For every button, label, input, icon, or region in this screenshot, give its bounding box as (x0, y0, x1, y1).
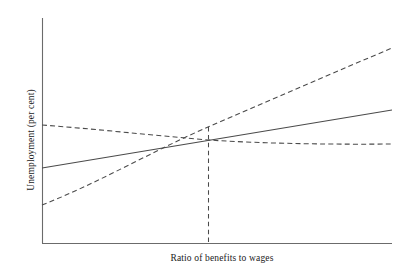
price-setting-curve (42, 48, 392, 205)
flat-dashed-curve (42, 125, 392, 144)
chart-figure: Unemployment (per cent) Ratio of benefit… (0, 0, 410, 275)
y-axis-label: Unemployment (per cent) (26, 40, 36, 240)
x-axis-label: Ratio of benefits to wages (0, 253, 410, 263)
plot-area (0, 0, 410, 275)
wage-setting-curve (42, 110, 392, 168)
